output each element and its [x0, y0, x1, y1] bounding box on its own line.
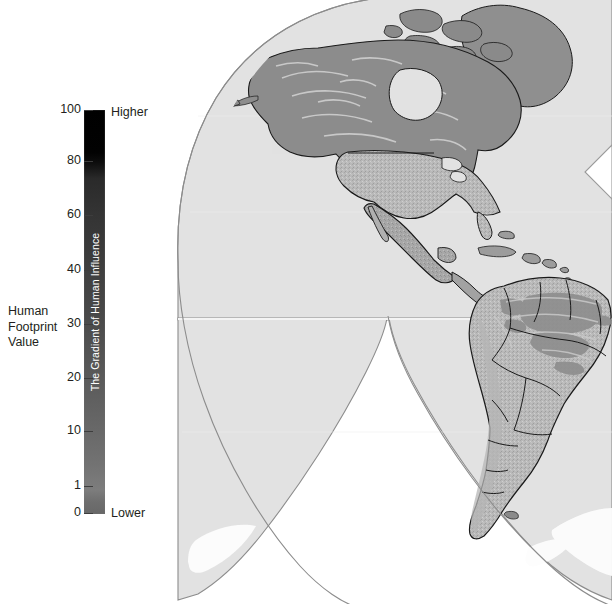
colorbar-gradient [84, 110, 105, 514]
tick-1: 1 [15, 486, 93, 487]
legend-title: Human Footprint Value [8, 304, 68, 351]
legend-title-line-1: Human [8, 304, 68, 320]
tick-100: 100 [15, 110, 93, 111]
legend-panel: The Gradient of Human Influence 100 80 6… [0, 0, 175, 604]
tick-label-80: 80 [21, 153, 81, 167]
tick-dash-30 [84, 324, 93, 325]
tick-20: 20 [15, 378, 93, 379]
tick-dash-20 [84, 378, 93, 379]
legend-low-label: Lower [111, 506, 145, 520]
tick-dash-1 [84, 486, 93, 487]
figure-root: The Gradient of Human Influence 100 80 6… [0, 0, 612, 604]
legend-title-line-2: Footprint [8, 320, 68, 336]
tick-label-40: 40 [21, 262, 81, 276]
tick-80: 80 [15, 161, 93, 162]
tick-label-100: 100 [21, 102, 81, 116]
tick-10: 10 [15, 431, 93, 432]
tick-dash-100 [84, 110, 93, 111]
tick-60: 60 [15, 215, 93, 216]
tick-label-1: 1 [21, 478, 81, 492]
tick-0: 0 [15, 513, 93, 514]
tick-dash-0 [84, 513, 93, 514]
legend-high-label: Higher [111, 105, 148, 119]
tick-dash-40 [84, 270, 93, 271]
tick-dash-60 [84, 215, 93, 216]
tick-dash-80 [84, 161, 93, 162]
tick-label-0: 0 [21, 505, 81, 519]
tick-label-20: 20 [21, 370, 81, 384]
hudson-bay [389, 68, 442, 120]
tick-dash-10 [84, 431, 93, 432]
tick-40: 40 [15, 270, 93, 271]
tick-label-10: 10 [21, 423, 81, 437]
tick-label-60: 60 [21, 207, 81, 221]
legend-title-line-3: Value [8, 335, 68, 351]
